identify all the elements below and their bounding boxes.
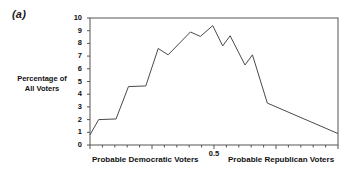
y-tick-label: 9 xyxy=(66,27,82,35)
x-caption-right: Probable Republican Voters xyxy=(228,155,334,165)
plot-frame xyxy=(90,18,338,145)
y-tick-label: 0 xyxy=(66,141,82,149)
y-tick-label: 6 xyxy=(66,65,82,73)
y-tick-label: 5 xyxy=(66,78,82,86)
y-tick-label: 7 xyxy=(66,52,82,60)
y-tick-label: 2 xyxy=(66,116,82,124)
y-tick-label: 1 xyxy=(66,128,82,136)
y-tick-label: 3 xyxy=(66,103,82,111)
y-tick-label: 4 xyxy=(66,90,82,98)
figure-panel: (a) Percentage of All Voters 01234567891… xyxy=(0,0,344,178)
plot-area: 012345678910 0.5 Probable Democratic Vot… xyxy=(0,0,344,178)
line-chart-svg xyxy=(0,0,344,178)
y-tick-label: 10 xyxy=(66,14,82,22)
x-caption-left: Probable Democratic Voters xyxy=(92,155,199,165)
x-tick-label: 0.5 xyxy=(202,150,226,158)
y-tick-label: 8 xyxy=(66,39,82,47)
chart-frame xyxy=(90,18,338,145)
